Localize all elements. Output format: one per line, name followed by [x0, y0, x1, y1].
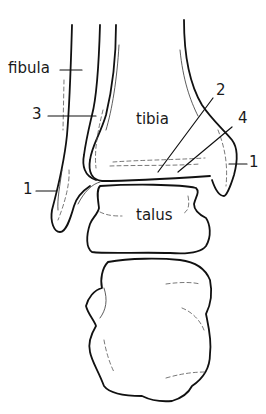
callout-1-right-label: 1 — [249, 155, 259, 170]
fibula-label: fibula — [8, 61, 50, 76]
fibula-bone — [51, 25, 100, 232]
callout-1-left-label: 1 — [23, 182, 33, 197]
ankle-anatomy-diagram: fibula 3 tibia 2 4 1 1 talus — [0, 0, 266, 414]
talus-label: talus — [136, 208, 173, 223]
callout-4-label: 4 — [238, 111, 248, 126]
tibia-bone — [90, 20, 237, 196]
tibia-label: tibia — [136, 112, 169, 127]
callout-3-label: 3 — [32, 107, 42, 122]
callout-2-label: 2 — [216, 83, 226, 98]
lower-tarsal-bone — [86, 259, 211, 402]
